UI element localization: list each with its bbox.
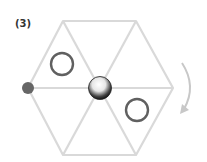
center-sphere: [89, 77, 112, 100]
open-circle-lower-right: [126, 99, 148, 121]
open-circle-upper-left: [51, 53, 73, 75]
rotation-arrow-icon: [180, 63, 190, 114]
filled-dot: [22, 82, 34, 94]
hexagon-diagram: [0, 0, 207, 162]
